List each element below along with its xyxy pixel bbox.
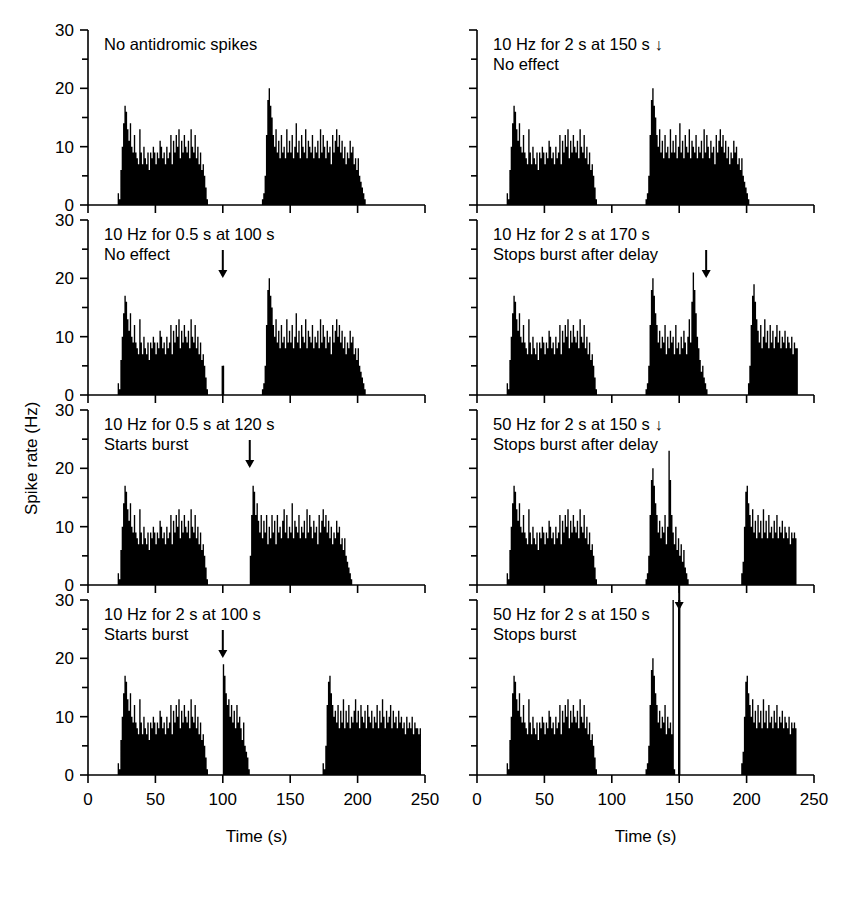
histogram-bars (118, 664, 421, 775)
annotation-line-2: Starts burst (104, 624, 261, 644)
stimulus-arrow-icon (675, 582, 684, 610)
y-tick-label: 30 (55, 401, 74, 420)
y-tick-label: 10 (55, 708, 74, 727)
annotation-line-1: 50 Hz for 2 s at 150 s ↓ (493, 414, 663, 434)
annotation-line-2: No effect (493, 54, 663, 74)
chart-panel-p8: 05010015020025050 Hz for 2 s at 150 sSto… (407, 578, 862, 843)
x-axis-label: Time (s) (477, 827, 814, 847)
histogram-bars (118, 486, 353, 585)
x-tick-label: 50 (146, 790, 165, 809)
x-tick-label: 100 (209, 790, 237, 809)
panel-annotation-p6: 10 Hz for 2 s at 170 sStops burst after … (493, 224, 658, 264)
y-tick-label: 10 (55, 518, 74, 537)
stimulus-arrow-icon (702, 250, 711, 278)
annotation-line-2: Stops burst after delay (493, 434, 663, 454)
panel-annotation-p2: 10 Hz for 0.5 s at 100 sNo effect (104, 224, 275, 264)
annotation-line-1: 10 Hz for 2 s at 170 s (493, 224, 658, 244)
y-tick-label: 30 (55, 21, 74, 40)
panel-annotation-p7: 50 Hz for 2 s at 150 s ↓Stops burst afte… (493, 414, 663, 454)
y-tick-label: 30 (55, 591, 74, 610)
panel-annotation-p8: 50 Hz for 2 s at 150 sStops burst (493, 604, 650, 644)
y-tick-label: 10 (55, 138, 74, 157)
x-tick-label: 150 (665, 790, 693, 809)
x-tick-label: 0 (83, 790, 92, 809)
x-tick-label: 100 (598, 790, 626, 809)
x-tick-label: 0 (472, 790, 481, 809)
y-tick-label: 30 (55, 211, 74, 230)
x-tick-label: 200 (732, 790, 760, 809)
panel-annotation-p1: No antidromic spikes (104, 34, 257, 54)
figure-root: Spike rate (Hz) 0102030No antidromic spi… (0, 0, 862, 898)
x-tick-label: 150 (276, 790, 304, 809)
annotation-line-1: 10 Hz for 0.5 s at 100 s (104, 224, 275, 244)
x-tick-label: 250 (800, 790, 828, 809)
annotation-line-1: 10 Hz for 0.5 s at 120 s (104, 414, 275, 434)
x-tick-label: 200 (343, 790, 371, 809)
stimulus-spike (678, 600, 680, 775)
histogram-bars (507, 88, 750, 205)
panel-annotation-p4: 10 Hz for 2 s at 100 sStarts burst (104, 604, 261, 644)
histogram-bars (118, 88, 366, 205)
annotation-line-2: No effect (104, 244, 275, 264)
y-tick-label: 20 (55, 459, 74, 478)
annotation-line-1: 10 Hz for 2 s at 150 s ↓ (493, 34, 663, 54)
y-tick-label: 20 (55, 79, 74, 98)
histogram-bars (118, 278, 366, 395)
annotation-line-1: No antidromic spikes (104, 34, 257, 54)
x-tick-label: 50 (535, 790, 554, 809)
annotation-line-2: Stops burst after delay (493, 244, 658, 264)
y-tick-label: 0 (65, 766, 74, 785)
annotation-line-1: 10 Hz for 2 s at 100 s (104, 604, 261, 624)
annotation-line-1: 50 Hz for 2 s at 150 s (493, 604, 650, 624)
y-tick-label: 10 (55, 328, 74, 347)
x-axis-label: Time (s) (88, 827, 425, 847)
histogram-bars (507, 273, 798, 396)
y-tick-label: 20 (55, 269, 74, 288)
annotation-line-2: Starts burst (104, 434, 275, 454)
panel-annotation-p3: 10 Hz for 0.5 s at 120 sStarts burst (104, 414, 275, 454)
histogram-bars (507, 451, 797, 585)
panel-annotation-p5: 10 Hz for 2 s at 150 s ↓No effect (493, 34, 663, 74)
annotation-line-2: Stops burst (493, 624, 650, 644)
y-tick-label: 20 (55, 649, 74, 668)
